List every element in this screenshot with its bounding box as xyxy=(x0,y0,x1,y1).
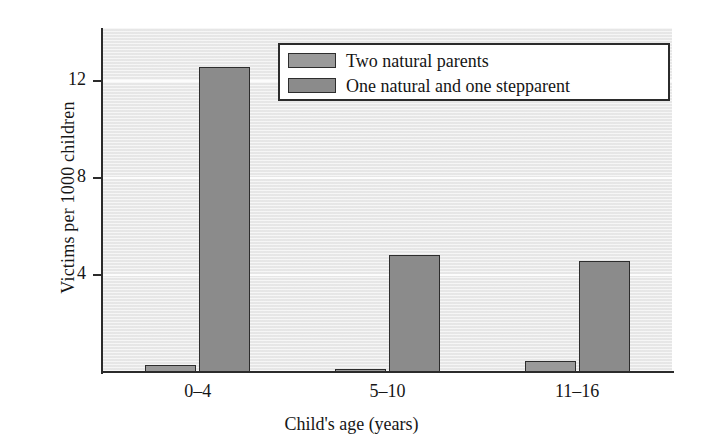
bar-5-10-series-1 xyxy=(389,255,440,372)
legend-label-1: One natural and one stepparent xyxy=(346,76,570,96)
x-tick-label-0: 0–4 xyxy=(128,381,268,402)
y-tick-label-4: 4 xyxy=(40,263,86,284)
y-tick-label-8: 8 xyxy=(40,166,86,187)
legend-item-1[interactable]: One natural and one stepparent xyxy=(288,73,662,98)
legend-swatch-1 xyxy=(288,78,336,93)
bar-11-16-series-1 xyxy=(579,261,630,372)
x-tick-label-1: 5–10 xyxy=(318,381,458,402)
legend-label-0: Two natural parents xyxy=(346,51,489,71)
bar-chart-figure: Victims per 1000 children 4812 0–45–1011… xyxy=(0,0,703,446)
x-tick-label-2: 11–16 xyxy=(507,381,647,402)
legend-swatch-0 xyxy=(288,53,336,68)
x-axis-title: Child's age (years) xyxy=(0,414,703,435)
y-tick-label-12: 12 xyxy=(40,69,86,90)
gridline-8 xyxy=(103,177,672,179)
y-tick-mark-4 xyxy=(93,274,103,276)
legend-box: Two natural parentsOne natural and one s… xyxy=(278,43,670,101)
legend-item-0[interactable]: Two natural parents xyxy=(288,48,662,73)
y-tick-mark-12 xyxy=(93,80,103,82)
y-tick-mark-8 xyxy=(93,177,103,179)
bar-0-4-series-1 xyxy=(199,67,250,372)
x-axis-line xyxy=(101,371,674,373)
